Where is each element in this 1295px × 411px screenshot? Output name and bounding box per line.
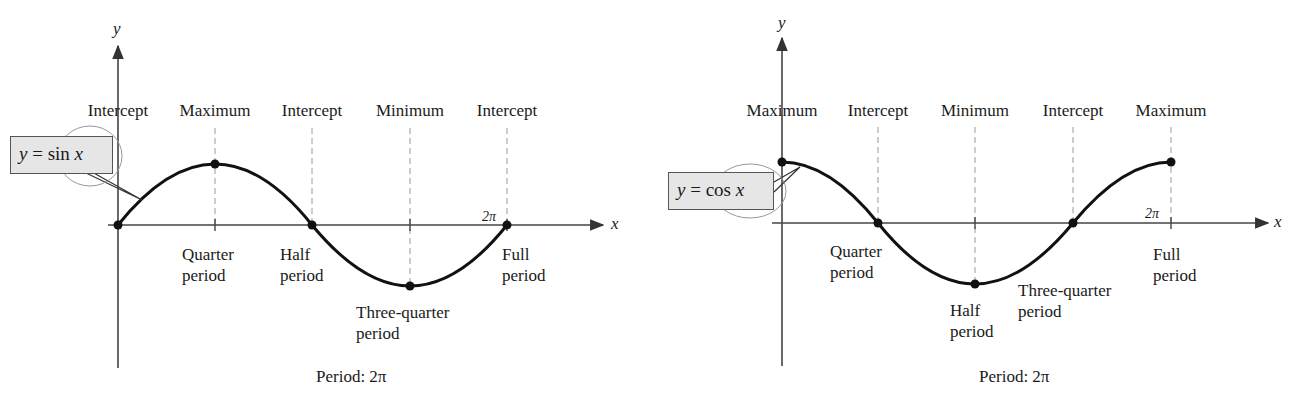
- cosine-top-label-4: Maximum: [1136, 100, 1207, 121]
- label-line1: Half: [280, 244, 323, 265]
- label-line1: Three-quarter: [1018, 280, 1111, 301]
- label-line2: period: [502, 265, 545, 286]
- sine-y-axis-label: y: [113, 18, 121, 39]
- equation-lhs: y: [19, 143, 27, 164]
- sine-full-period-label: Full period: [502, 244, 545, 286]
- label-line1: Quarter: [182, 244, 234, 265]
- equation-arg: x: [75, 143, 83, 164]
- label-line1: Full: [1153, 244, 1196, 265]
- equation-arg: x: [736, 179, 744, 200]
- sine-period-caption: Period: 2π: [316, 366, 386, 387]
- sine-top-label-1: Maximum: [180, 100, 251, 121]
- sine-graph: [58, 46, 603, 368]
- equation-equals: =: [690, 179, 701, 200]
- cosine-2pi-tick-label: 2π: [1145, 203, 1159, 224]
- equation-lhs: y: [677, 179, 685, 200]
- cosine-guide-lines: [878, 127, 1171, 284]
- sine-half-period-label: Half period: [280, 244, 323, 286]
- sine-guide-lines: [215, 128, 507, 286]
- cosine-half-period-label: Half period: [950, 300, 993, 342]
- sine-three-quarter-period-label: Three-quarter period: [356, 302, 449, 344]
- cosine-period-caption: Period: 2π: [979, 366, 1049, 387]
- cosine-top-label-2: Minimum: [941, 100, 1009, 121]
- sine-equation-box: y = sin x: [10, 136, 113, 174]
- cosine-top-label-1: Intercept: [848, 100, 908, 121]
- label-line2: period: [182, 265, 234, 286]
- label-line1: Quarter: [830, 241, 882, 262]
- label-line1: Half: [950, 300, 993, 321]
- label-line2: period: [1153, 265, 1196, 286]
- cosine-callout-pointer: [774, 167, 800, 192]
- cosine-full-period-label: Full period: [1153, 244, 1196, 286]
- equation-function: cos: [706, 179, 731, 200]
- sine-top-label-3: Minimum: [376, 100, 444, 121]
- trig-graphs-canvas: [0, 0, 1295, 411]
- cosine-equation-box: y = cos x: [668, 172, 774, 210]
- label-line2: period: [830, 262, 882, 283]
- sine-2pi-tick-label: 2π: [482, 206, 496, 227]
- cosine-quarter-period-label: Quarter period: [830, 241, 882, 283]
- label-line1: Three-quarter: [356, 302, 449, 323]
- sine-top-label-2: Intercept: [282, 100, 342, 121]
- equation-equals: =: [32, 143, 43, 164]
- sine-top-label-4: Intercept: [477, 100, 537, 121]
- cosine-top-label-3: Intercept: [1043, 100, 1103, 121]
- cosine-top-label-0: Maximum: [747, 100, 818, 121]
- sine-top-label-0: Intercept: [88, 100, 148, 121]
- label-line2: period: [356, 323, 449, 344]
- label-line2: period: [950, 321, 993, 342]
- cosine-y-axis-label: y: [778, 12, 786, 33]
- cosine-x-axis-label: x: [1274, 211, 1282, 232]
- cosine-three-quarter-period-label: Three-quarter period: [1018, 280, 1111, 322]
- sine-x-axis-label: x: [611, 213, 619, 234]
- label-line2: period: [1018, 301, 1111, 322]
- label-line2: period: [280, 265, 323, 286]
- sine-quarter-period-label: Quarter period: [182, 244, 234, 286]
- equation-function: sin: [48, 143, 70, 164]
- label-line1: Full: [502, 244, 545, 265]
